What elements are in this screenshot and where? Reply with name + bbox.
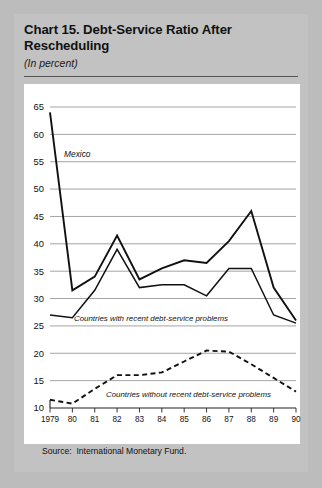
x-axis-tick-label: 85: [180, 415, 190, 424]
series-label-with-problems: Countries with recent debt-service probl…: [74, 314, 228, 323]
y-axis-tick-labels: 101520253035404550556065: [34, 101, 44, 413]
chart-source-note: Source: International Monetary Fund.: [42, 446, 186, 456]
x-axis-tick-label: 89: [269, 415, 279, 424]
line-chart: 101520253035404550556065 197980818283848…: [14, 84, 308, 424]
title-divider: [24, 76, 298, 77]
x-axis-tick-label: 88: [247, 415, 257, 424]
series-line-with-problems: [50, 249, 296, 323]
y-axis-tick-label: 20: [34, 348, 44, 359]
y-axis-tick-label: 30: [34, 293, 44, 304]
y-axis-tick-label: 55: [34, 156, 44, 167]
x-axis-tick-label: 82: [113, 415, 123, 424]
x-axis-ticks: [50, 408, 296, 413]
x-axis-tick-label: 84: [157, 415, 167, 424]
y-axis-tick-label: 10: [34, 402, 44, 413]
y-axis-tick-label: 40: [34, 238, 44, 249]
x-axis-tick-labels: 19798081828384858687888990: [41, 415, 301, 424]
chart-subtitle: (In percent): [24, 57, 78, 69]
y-axis-tick-label: 65: [34, 101, 44, 112]
y-axis-tick-label: 35: [34, 266, 44, 277]
x-axis-tick-label: 80: [68, 415, 78, 424]
y-axis-tick-label: 25: [34, 320, 44, 331]
y-axis-tick-label: 50: [34, 183, 44, 194]
y-axis-tick-label: 45: [34, 211, 44, 222]
series-label-mexico: Mexico: [64, 149, 91, 159]
chart-figure-frame: Chart 15. Debt-Service Ratio After Resch…: [0, 0, 322, 488]
x-axis-tick-label: 90: [291, 415, 301, 424]
x-axis-tick-label: 87: [224, 415, 234, 424]
chart-title-block: Chart 15. Debt-Service Ratio After Resch…: [14, 14, 308, 90]
page-title: Chart 15. Debt-Service Ratio After Resch…: [24, 22, 294, 53]
y-axis-tick-label: 60: [34, 129, 44, 140]
x-axis-tick-label: 1979: [41, 415, 60, 424]
series-label-without-problems: Countries without recent debt-service pr…: [106, 390, 271, 399]
x-axis-tick-label: 83: [135, 415, 145, 424]
x-axis-tick-label: 81: [90, 415, 100, 424]
y-axis-tick-label: 15: [34, 375, 44, 386]
x-axis-tick-label: 86: [202, 415, 212, 424]
